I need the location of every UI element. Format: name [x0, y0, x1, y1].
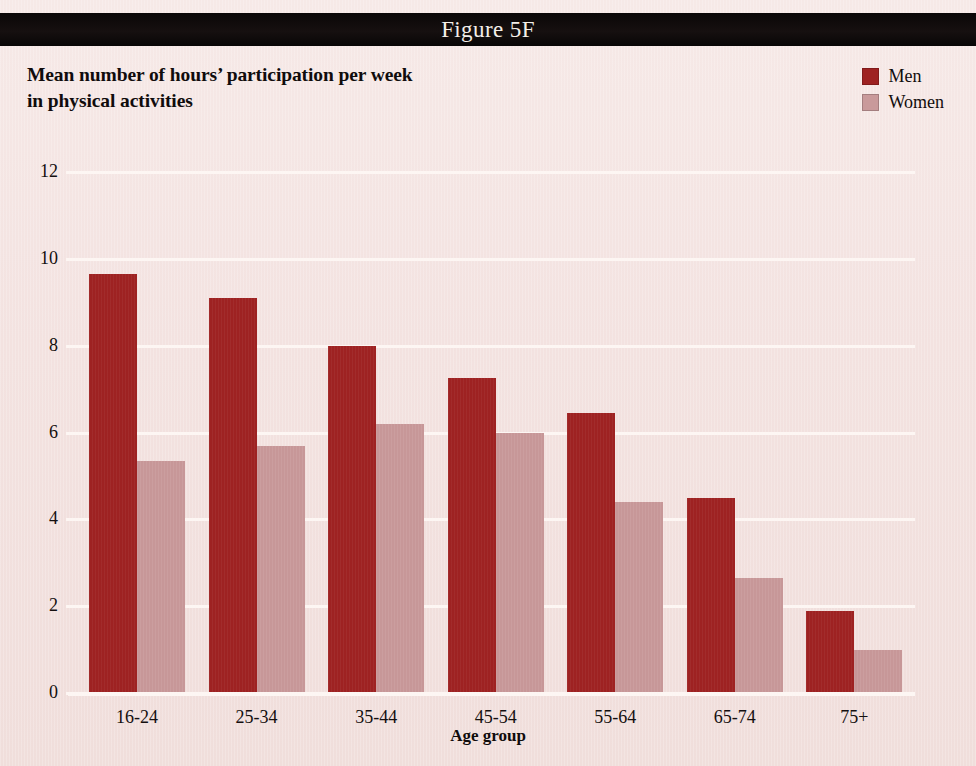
bar-men-16-24: [89, 274, 137, 693]
bar-group: 25-34: [198, 172, 318, 693]
chart-title: Mean number of hours’ participation per …: [27, 62, 667, 114]
bar-men-65-74: [687, 498, 735, 693]
legend-label-women: Women: [888, 92, 944, 113]
y-axis-tick: [66, 258, 78, 261]
chart-title-line-1: Mean number of hours’ participation per …: [27, 62, 667, 88]
y-axis-tick-label: 8: [49, 335, 58, 356]
y-axis-tick-label: 12: [40, 161, 58, 182]
bar-group: 75+: [795, 172, 915, 693]
x-axis-tick-label: 65-74: [671, 707, 799, 728]
x-axis-tick-label: 75+: [790, 707, 918, 728]
y-axis-tick-label: 4: [49, 508, 58, 529]
bar-group: 45-54: [437, 172, 557, 693]
bar-men-75+: [806, 611, 854, 693]
figure-number-label: Figure 5F: [441, 17, 535, 43]
figure-container: Figure 5F Mean number of hours’ particip…: [0, 0, 976, 766]
y-axis-tick: [66, 171, 78, 174]
bar-men-35-44: [328, 346, 376, 693]
legend-swatch-women-icon: [862, 94, 879, 111]
figure-header-band: Figure 5F: [0, 13, 976, 46]
y-axis-tick: [66, 345, 78, 348]
bar-women-35-44: [376, 424, 424, 693]
y-axis-tick-label: 10: [40, 248, 58, 269]
x-axis-title: Age group: [0, 726, 976, 746]
y-axis-tick: [66, 605, 78, 608]
legend-swatch-men-icon: [862, 68, 879, 85]
bar-men-55-64: [567, 413, 615, 693]
bar-women-55-64: [615, 502, 663, 693]
bar-group: 55-64: [556, 172, 676, 693]
x-axis-tick-label: 35-44: [312, 707, 440, 728]
x-axis-tick-label: 45-54: [432, 707, 560, 728]
chart-legend: Men Women: [862, 66, 944, 113]
bar-group: 65-74: [676, 172, 796, 693]
chart-title-line-2: in physical activities: [27, 88, 667, 114]
legend-label-men: Men: [888, 66, 921, 87]
x-axis-tick-label: 55-64: [551, 707, 679, 728]
bar-men-25-34: [209, 298, 257, 693]
bar-women-25-34: [257, 446, 305, 693]
y-axis-tick-label: 0: [49, 682, 58, 703]
y-axis-title: Mean number of hours: [0, 125, 2, 292]
x-axis-baseline: [68, 692, 915, 696]
bar-men-45-54: [448, 378, 496, 693]
bar-women-65-74: [735, 578, 783, 693]
legend-item-men: Men: [862, 66, 944, 87]
legend-item-women: Women: [862, 92, 944, 113]
y-axis-tick: [66, 518, 78, 521]
y-axis-tick-label: 2: [49, 595, 58, 616]
bar-women-45-54: [496, 433, 544, 694]
bar-women-16-24: [137, 461, 185, 693]
x-axis-tick-label: 16-24: [73, 707, 201, 728]
bar-group: 16-24: [78, 172, 198, 693]
bar-women-75+: [854, 650, 902, 693]
y-axis-tick-label: 6: [49, 422, 58, 443]
y-axis-tick: [66, 432, 78, 435]
x-axis-tick-label: 25-34: [193, 707, 321, 728]
plot-area: 024681012 16-2425-3435-4445-5455-6465-74…: [78, 172, 915, 693]
bar-group: 35-44: [317, 172, 437, 693]
bars-layer: 16-2425-3435-4445-5455-6465-7475+: [78, 172, 915, 693]
